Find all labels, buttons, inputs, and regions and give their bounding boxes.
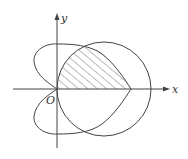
x-axis-label: x [172,83,179,96]
diagram-canvas: x y O [0,0,188,159]
x-axis-arrow-icon [163,87,170,92]
polar-diagram: x y O [0,0,188,159]
y-axis-arrow-icon [55,13,60,20]
y-axis-label: y [60,12,68,25]
origin-label: O [46,94,55,107]
